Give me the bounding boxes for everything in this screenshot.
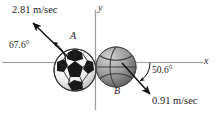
body-label-a: A [70, 31, 76, 41]
body-label-b: B [114, 86, 120, 96]
angle-label-b: 50.6° [152, 66, 172, 76]
angle-arc-b [140, 63, 150, 82]
basketball-b [96, 47, 136, 87]
angle-label-a: 67.6° [9, 41, 29, 51]
y-axis-label: y [98, 3, 102, 13]
x-axis-label: x [204, 56, 208, 66]
physics-vector-diagram: 2.81 m/sec 67.6° A y x 50.6° B 0.91 m/se… [0, 0, 220, 119]
velocity-label-b: 0.91 m/sec [152, 96, 198, 107]
velocity-label-a: 2.81 m/sec [12, 5, 58, 16]
soccer-ball-a [54, 49, 96, 91]
